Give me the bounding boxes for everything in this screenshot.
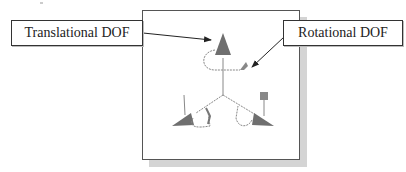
- translational-leader-arrow: [143, 33, 211, 40]
- translational-dof-callout: Translational DOF: [11, 20, 143, 46]
- rotational-dof-label: Rotational DOF: [298, 25, 388, 41]
- translational-dof-label: Translational DOF: [25, 25, 130, 41]
- rotational-dof-callout: Rotational DOF: [283, 20, 403, 46]
- translational-dof-y-icon: [215, 33, 231, 55]
- translational-dof-x-icon: [172, 95, 194, 126]
- rotational-dof-z-loop: [236, 106, 252, 126]
- rotational-dof-x-icon: [206, 108, 210, 124]
- rotational-leader-arrow: [252, 37, 284, 67]
- rotational-dof-x-loop: [192, 112, 210, 127]
- translational-dof-z-icon: [252, 92, 274, 126]
- rotational-dof-y-icon: [240, 62, 248, 70]
